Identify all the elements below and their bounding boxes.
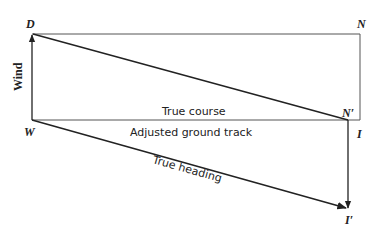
true-heading-label: True heading: [150, 153, 223, 185]
true-course-label: True course: [161, 105, 226, 118]
wind-label: Wind: [11, 62, 25, 91]
point-i-prime-label: I′: [344, 213, 353, 227]
point-n-prime-label: N′: [341, 106, 354, 120]
point-w-label: W: [24, 125, 36, 139]
point-i-label: I: [356, 127, 363, 141]
adjusted-ground-track-label: Adjusted ground track: [130, 126, 253, 139]
point-n-label: N: [356, 17, 367, 31]
wind-triangle-diagram: D N N′ W I I′ Wind True course Adjusted …: [0, 0, 381, 238]
point-d-label: D: [25, 17, 35, 31]
